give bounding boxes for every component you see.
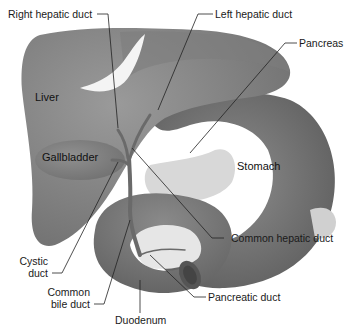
- liver-label: Liver: [35, 91, 59, 103]
- cystic-duct-label-line2: duct: [18, 267, 48, 279]
- common-bile-duct-label-line2: bile duct: [40, 298, 90, 310]
- duodenum-label: Duodenum: [115, 314, 166, 326]
- gallbladder-label: Gallbladder: [42, 151, 98, 163]
- left-hepatic-duct-label: Left hepatic duct: [215, 8, 292, 20]
- pancreas-label: Pancreas: [299, 37, 343, 49]
- anatomy-diagram: Liver Gallbladder Stomach Right hepatic …: [0, 0, 348, 328]
- common-bile-duct-label-line1: Common: [40, 286, 90, 298]
- pancreatic-duct-label: Pancreatic duct: [208, 291, 280, 303]
- common-hepatic-duct-label: Common hepatic duct: [231, 232, 333, 244]
- anatomy-illustration: [0, 0, 348, 328]
- stomach-label: Stomach: [237, 160, 280, 172]
- right-hepatic-duct-label: Right hepatic duct: [8, 8, 92, 20]
- cystic-duct-label-line1: Cystic: [18, 255, 48, 267]
